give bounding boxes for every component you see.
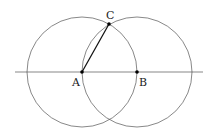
point-b xyxy=(135,70,139,74)
label-c: C xyxy=(106,9,114,22)
diagram-canvas: A B C xyxy=(0,0,210,137)
point-a xyxy=(80,70,84,74)
point-c xyxy=(107,22,111,26)
label-a: A xyxy=(71,76,81,89)
label-b: B xyxy=(139,76,147,89)
segment-ac xyxy=(82,24,109,72)
